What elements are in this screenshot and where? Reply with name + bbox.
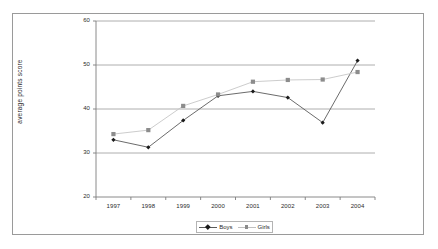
x-axis-tick-label: 2004	[343, 203, 373, 209]
gridlines	[96, 21, 375, 153]
x-axis-tick-label: 1998	[133, 203, 163, 209]
girls-line-swatch	[238, 227, 256, 228]
x-axis-tick-label: 2002	[273, 203, 303, 209]
legend-label-girls: Girls	[258, 224, 270, 230]
x-axis-tick-label: 2003	[308, 203, 338, 209]
series-lines	[113, 61, 357, 148]
y-axis-title: average points score	[16, 47, 23, 137]
x-axis-tick-label: 1997	[98, 203, 128, 209]
legend-label-boys: Boys	[219, 224, 232, 230]
x-axis-tick-label: 2001	[238, 203, 268, 209]
y-axis-tick-label: 60	[70, 17, 90, 23]
y-axis-tick-label: 20	[70, 193, 90, 199]
legend-entry-boys: Boys	[199, 224, 232, 230]
line-chart	[0, 0, 438, 249]
diamond-marker-icon	[206, 224, 211, 229]
y-axis-tick-label: 40	[70, 105, 90, 111]
x-axis-tick-label: 2000	[203, 203, 233, 209]
series-markers	[111, 59, 359, 150]
y-axis-tick-label: 30	[70, 149, 90, 155]
x-axis-tick-label: 1999	[168, 203, 198, 209]
chart-legend: Boys Girls	[196, 221, 273, 233]
square-marker-icon	[245, 225, 249, 229]
y-axis-tick-label: 50	[70, 61, 90, 67]
legend-entry-girls: Girls	[238, 224, 270, 230]
boys-line-swatch	[199, 227, 217, 228]
